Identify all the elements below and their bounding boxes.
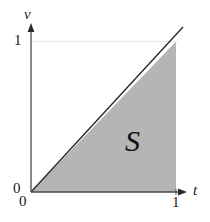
y-axis-tick-label-1: 1 <box>14 33 22 48</box>
shaded-region-s <box>31 42 176 193</box>
region-label-s: S <box>125 126 140 156</box>
y-axis-label: v <box>24 7 31 22</box>
x-axis-label: t <box>193 183 197 198</box>
region-diagram-figure: v t 1 0 0 1 S <box>0 0 210 222</box>
x-axis-tick-label-1: 1 <box>172 195 180 210</box>
x-axis-origin-label: 0 <box>19 194 27 209</box>
y-axis-arrow-icon <box>28 23 35 32</box>
plot-canvas <box>0 0 210 222</box>
